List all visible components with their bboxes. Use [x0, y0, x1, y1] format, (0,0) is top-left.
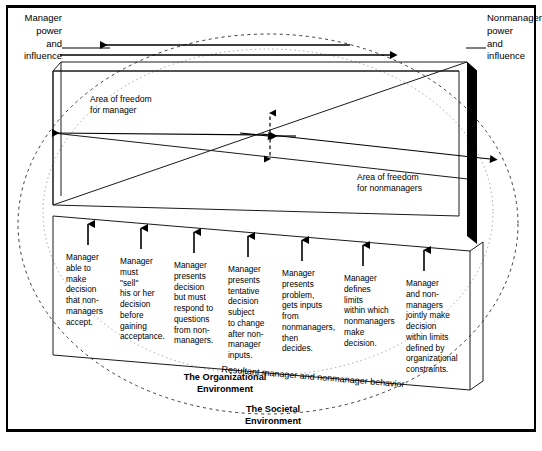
nonmanager-power-label: Nonmanager power and influence — [487, 12, 542, 63]
societal-environment-label: The Societal Environment — [213, 404, 333, 427]
nonmanager-power-bar — [467, 62, 477, 244]
behavior-column-1: Manager able to make decision that non- … — [66, 252, 112, 327]
behavior-column-6: Manager defines limits within which nonm… — [344, 273, 404, 348]
organizational-environment-label: The Organizational Environment — [165, 372, 285, 395]
behavior-column-7: Manager and non- managers jointly make d… — [406, 278, 466, 375]
manager-power-label: Manager power and influence — [2, 12, 62, 63]
area-of-freedom-manager-label: Area of freedom for manager — [90, 94, 200, 117]
behavior-column-4: Manager presents tentative decision subj… — [228, 264, 276, 361]
manager-power-arrow — [52, 133, 272, 135]
behavior-column-3: Manager presents decision but must respo… — [174, 260, 224, 346]
behavior-column-2: Manager must "sell" his or her decision … — [120, 256, 168, 342]
leadership-continuum-figure: Manager power and influence Nonmanager p… — [0, 0, 542, 451]
nonmanager-power-arrow — [262, 134, 490, 159]
behavior-column-5: Manager presents problem, gets inputs fr… — [282, 268, 340, 354]
area-of-freedom-nonmanager-label: Area of freedom for nonmanagers — [357, 172, 467, 195]
